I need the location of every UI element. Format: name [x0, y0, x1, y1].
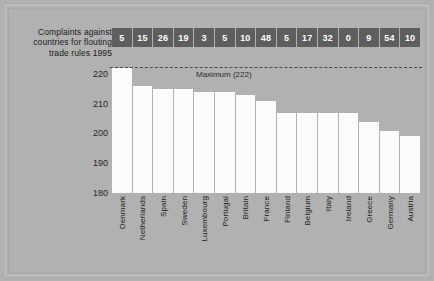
complaint-count-box: 10 — [236, 28, 256, 47]
complaint-count-box: 48 — [256, 28, 276, 47]
x-axis-tick-label: Austria — [406, 196, 415, 222]
y-axis-tick-label: 210 — [93, 99, 108, 109]
x-axis-label-cell: Germany — [380, 196, 400, 258]
complaint-count-box: 10 — [400, 28, 420, 47]
x-axis-tick-label: France — [261, 196, 270, 222]
x-axis-label-cell: Sweden — [174, 196, 194, 258]
maximum-reference-line — [110, 67, 422, 68]
x-axis-tick-label: Finland — [282, 196, 291, 223]
plot-area — [112, 68, 420, 193]
x-axis-label-cell: Belgium — [297, 196, 317, 258]
maximum-reference-label: Maximum (222) — [196, 70, 252, 79]
y-axis-tick-label: 200 — [93, 128, 108, 138]
complaint-count-box: 19 — [174, 28, 194, 47]
complaint-count-row: 515261935104851732095410 — [112, 28, 420, 47]
x-axis-tick-label: Netherlands — [138, 196, 147, 240]
x-axis-label-cell: Denmark — [112, 196, 132, 258]
complaint-count-box: 32 — [318, 28, 338, 47]
complaint-count-box: 3 — [194, 28, 214, 47]
bar — [174, 89, 194, 193]
x-axis-tick-label: Luxembourg — [200, 196, 209, 241]
x-axis-tick-label: Belgium — [303, 196, 312, 226]
x-axis-label-cell: Greece — [359, 196, 379, 258]
complaint-count-box: 54 — [380, 28, 400, 47]
bar — [297, 113, 317, 193]
x-axis-tick-label: Sweden — [179, 196, 188, 226]
x-axis-tick-label: Ireland — [344, 196, 353, 221]
complaint-count-box: 17 — [297, 28, 317, 47]
x-axis-label-cell: Ireland — [339, 196, 359, 258]
bar-series — [112, 68, 420, 193]
x-axis-tick-label: Britain — [241, 196, 250, 219]
bar — [380, 131, 400, 194]
complaint-count-box: 9 — [359, 28, 379, 47]
x-axis-tick-label: Italy — [323, 196, 332, 211]
x-axis-label-cell: Finland — [277, 196, 297, 258]
complaint-count-box: 5 — [112, 28, 132, 47]
bar — [133, 86, 153, 193]
x-axis-label-cell: Spain — [153, 196, 173, 258]
x-axis-label-cell: France — [256, 196, 276, 258]
bar — [236, 95, 256, 193]
y-axis-tick-label: 220 — [93, 69, 108, 79]
bar — [339, 113, 359, 193]
complaint-count-box: 0 — [339, 28, 359, 47]
chart-title: Complaints against countries for floutin… — [18, 27, 112, 58]
x-axis-label-cell: Netherlands — [133, 196, 153, 258]
bar — [318, 113, 338, 193]
x-axis-labels: DenmarkNetherlandsSpainSwedenLuxembourgP… — [112, 196, 420, 258]
complaint-count-box: 15 — [133, 28, 153, 47]
bar — [112, 68, 132, 193]
x-axis-tick-label: Portugal — [220, 196, 229, 227]
y-axis: 180190200210220 — [60, 60, 108, 200]
x-axis-tick-label: Germany — [385, 196, 394, 230]
bar — [215, 92, 235, 193]
bar — [400, 136, 420, 193]
y-axis-tick-label: 190 — [93, 158, 108, 168]
bar — [277, 113, 297, 193]
x-axis-label-cell: Luxembourg — [194, 196, 214, 258]
bar — [153, 89, 173, 193]
chart-figure: Complaints against countries for floutin… — [0, 0, 434, 281]
x-axis-label-cell: Austria — [400, 196, 420, 258]
bar — [359, 122, 379, 193]
complaint-count-box: 5 — [215, 28, 235, 47]
complaint-count-box: 26 — [153, 28, 173, 47]
y-axis-tick-label: 180 — [93, 188, 108, 198]
x-axis-label-cell: Italy — [318, 196, 338, 258]
x-axis-tick-label: Spain — [158, 196, 167, 217]
x-axis-label-cell: Britain — [236, 196, 256, 258]
x-axis-tick-label: Greece — [364, 196, 373, 223]
complaint-count-box: 5 — [277, 28, 297, 47]
bar — [194, 92, 214, 193]
x-axis-label-cell: Portugal — [215, 196, 235, 258]
bar — [256, 101, 276, 193]
x-axis-tick-label: Denmark — [117, 196, 126, 229]
